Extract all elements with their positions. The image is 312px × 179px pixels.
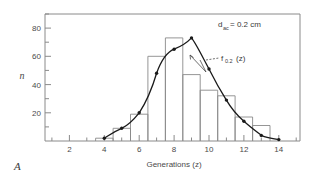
y-axis-tick-labels: 20 40 60 80 (32, 24, 41, 118)
curve-point (225, 98, 228, 101)
chart-svg: 20 40 60 80 n 2 (0, 0, 312, 179)
diameter-annotation-symbol: d (218, 20, 222, 29)
panel-label: A (13, 160, 21, 172)
curve-label-argument: (z) (236, 54, 246, 63)
x-tick-label-4: 4 (102, 145, 107, 154)
curve-point (260, 134, 263, 137)
x-tick-label-8: 8 (172, 145, 177, 154)
y-tick-label-40: 40 (32, 81, 41, 90)
histogram-bar (183, 75, 200, 141)
y-axis-title: n (20, 70, 25, 81)
axes-rectangle (45, 14, 300, 141)
curve-point (242, 120, 245, 123)
y-tick-label-60: 60 (32, 52, 41, 61)
x-tick-label-12: 12 (239, 145, 248, 154)
diameter-annotation-subscript: ac (223, 25, 229, 31)
curve-label-group: f 0.2 (z) (190, 54, 246, 72)
histogram-bar (200, 90, 218, 141)
curve-label-base: f (221, 54, 224, 63)
histogram-bar (218, 96, 235, 141)
y-tick-label-80: 80 (32, 24, 41, 33)
curve-label-subscript: 0.2 (225, 58, 233, 64)
curve-point (207, 67, 210, 70)
y-axis-ticks (45, 14, 51, 127)
x-tick-label-2: 2 (67, 145, 72, 154)
curve-point (103, 137, 106, 140)
curve-point (138, 111, 141, 114)
plot-frame (45, 14, 300, 141)
diameter-annotation-value: = 0.2 cm (230, 20, 261, 29)
x-tick-label-14: 14 (274, 145, 283, 154)
histogram-bar (148, 56, 166, 141)
x-axis-ticks (52, 135, 296, 141)
curve-label-connector (206, 58, 219, 60)
x-tick-label-6: 6 (137, 145, 142, 154)
y-tick-label-20: 20 (32, 109, 41, 118)
x-axis-tick-labels: 2 4 6 8 10 12 14 (67, 145, 284, 154)
curve-point (120, 127, 123, 130)
curve-point (190, 36, 193, 39)
diameter-annotation: d ac = 0.2 cm (218, 20, 261, 31)
curve-point (172, 48, 175, 51)
figure-panel-a: 20 40 60 80 n 2 (0, 0, 312, 179)
x-tick-label-10: 10 (205, 145, 214, 154)
x-axis-title: Generations (z) (146, 160, 201, 169)
curve-point (277, 138, 280, 141)
curve-point (155, 72, 158, 75)
